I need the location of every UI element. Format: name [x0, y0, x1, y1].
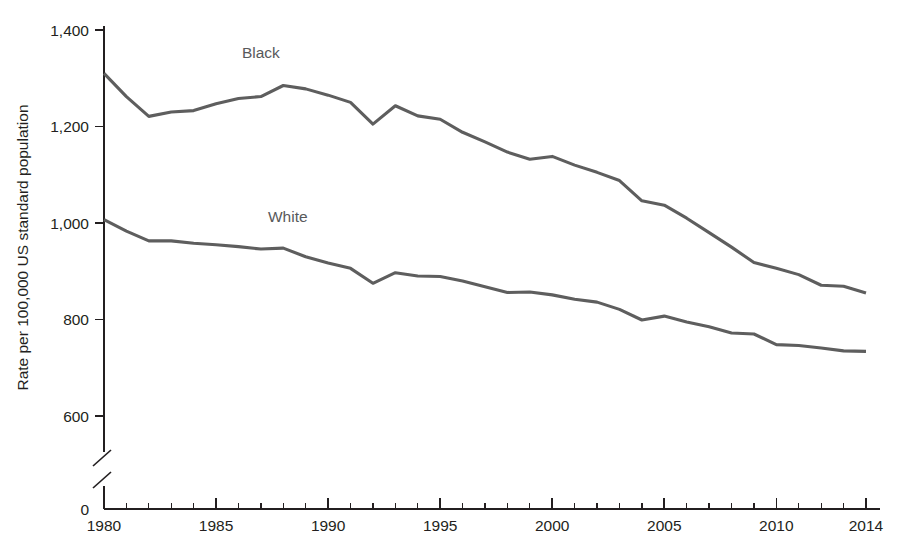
y-tick-label-1200: 1,200 [50, 118, 89, 135]
series-label-white: White [268, 208, 308, 225]
series-layer [104, 73, 866, 351]
series-label-black: Black [242, 44, 280, 61]
x-tick-label-2005: 2005 [647, 517, 681, 534]
x-tick-label-1990: 1990 [311, 517, 346, 534]
axis-break-slash-upper [93, 450, 111, 466]
line-chart: 6008001,0001,2001,4000198019851990199520… [0, 0, 907, 558]
x-tick-label-1985: 1985 [199, 517, 233, 534]
y-axis-title: Rate per 100,000 US standard population [14, 104, 31, 390]
x-tick-label-1980: 1980 [87, 517, 122, 534]
axes-layer: 6008001,0001,2001,4000198019851990199520… [50, 22, 883, 535]
axis-break-slash-lower [93, 472, 111, 488]
x-tick-label-2000: 2000 [535, 517, 570, 534]
series-line-black [104, 73, 866, 293]
y-tick-label-600: 600 [63, 408, 89, 425]
y-tick-label-800: 800 [63, 311, 89, 328]
series-line-white [104, 220, 866, 352]
x-tick-label-2010: 2010 [759, 517, 794, 534]
y-tick-label-1400: 1,400 [50, 22, 89, 39]
chart-container: 6008001,0001,2001,4000198019851990199520… [0, 0, 907, 558]
y-tick-label-zero: 0 [80, 501, 89, 518]
y-tick-label-1000: 1,000 [50, 215, 89, 232]
x-tick-label-2014: 2014 [849, 517, 884, 534]
x-tick-label-1995: 1995 [423, 517, 457, 534]
